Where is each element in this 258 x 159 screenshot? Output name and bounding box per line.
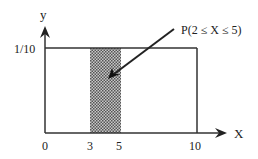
x-axis-label: X <box>234 126 244 141</box>
x-tick-5: 5 <box>116 139 122 153</box>
x-tick-0: 0 <box>42 139 48 153</box>
uniform-distribution-diagram: y 1/10 X 0 3 5 10 P(2 ≤ X ≤ 5) <box>0 0 258 159</box>
diagram-canvas: y 1/10 X 0 3 5 10 P(2 ≤ X ≤ 5) <box>0 0 258 159</box>
y-tick-1-10: 1/10 <box>14 42 35 56</box>
annotation-arrow-line <box>114 29 174 74</box>
probability-annotation-label: P(2 ≤ X ≤ 5) <box>181 23 242 37</box>
x-tick-10: 10 <box>189 139 201 153</box>
shaded-probability-region <box>90 48 121 133</box>
x-tick-3: 3 <box>87 139 93 153</box>
y-axis-label: y <box>40 7 47 22</box>
